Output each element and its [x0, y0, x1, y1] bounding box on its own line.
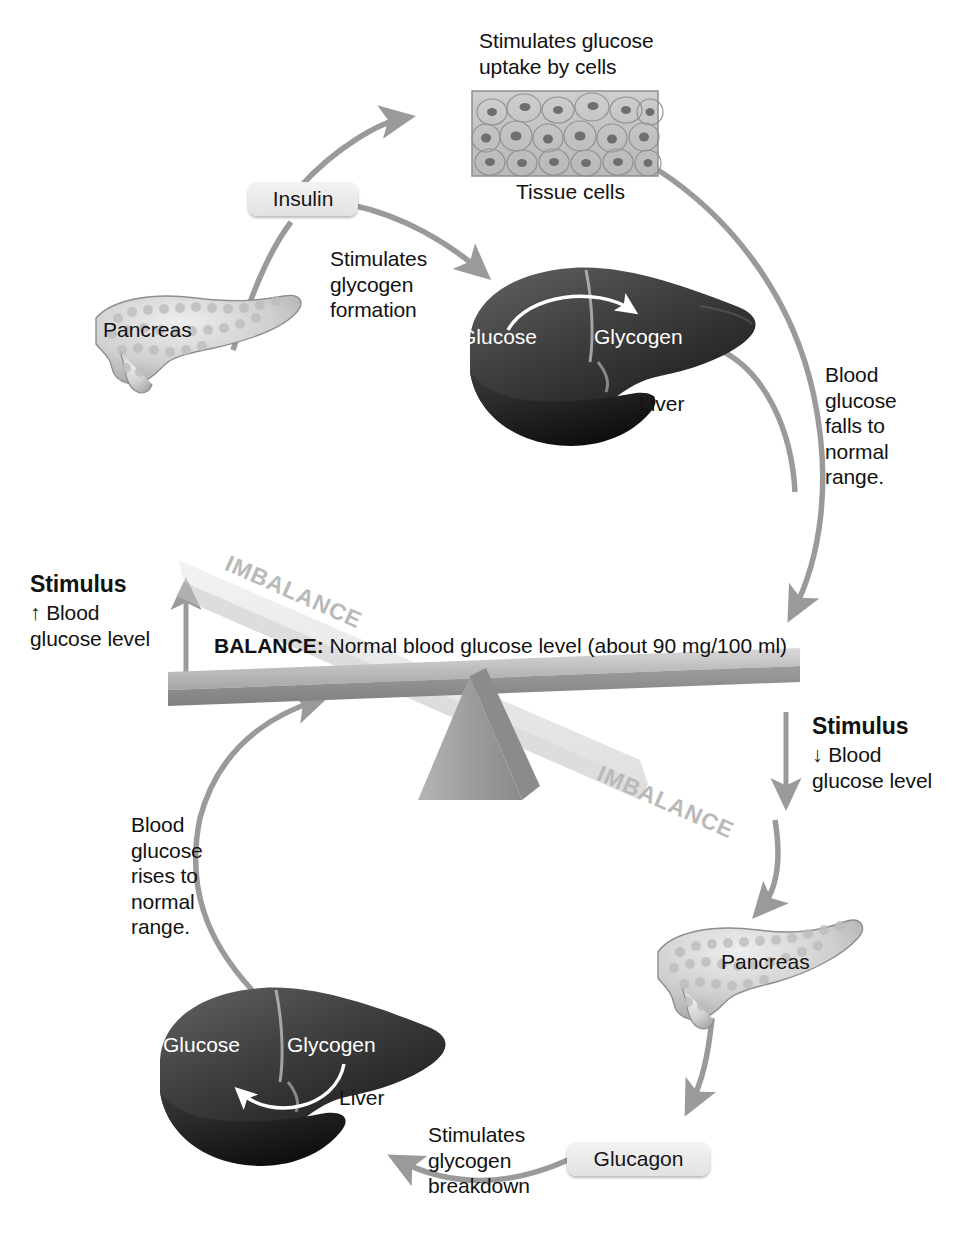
- stimulus-left-body: ↑ Blood glucose level: [30, 600, 150, 651]
- glycogen-to-glucose-arrow: [240, 1064, 344, 1108]
- pancreas-bottom-label: Pancreas: [721, 950, 810, 974]
- arc-pancreas-to-insulin: [233, 222, 291, 350]
- stimulates-glycogen-breakdown-text: Stimulates glycogen breakdown: [428, 1122, 530, 1199]
- arc-insulin-to-tissue: [300, 118, 404, 187]
- stimulus-left-heading: Stimulus: [30, 572, 126, 598]
- stimulates-uptake-text: Stimulates glucose uptake by cells: [479, 28, 653, 79]
- pancreas-bottom-image: [658, 920, 862, 1029]
- tissue-cells-label: Tissue cells: [516, 180, 625, 204]
- liver-bottom-image: [160, 988, 446, 1166]
- balance-statement: BALANCE: Normal blood glucose level (abo…: [214, 634, 787, 658]
- pancreas-top-image: [96, 295, 301, 392]
- liver-bottom-glycogen-label: Glycogen: [287, 1033, 376, 1057]
- arc-stimulus-to-pancreas: [760, 820, 778, 910]
- fulcrum: [418, 668, 540, 800]
- imbalance-beam-ghost: [176, 560, 648, 800]
- stimulates-glycogen-formation-text: Stimulates glycogen formation: [330, 246, 427, 323]
- blood-glucose-falls-text: Blood glucose falls to normal range.: [825, 362, 897, 490]
- balance-statement-rest: Normal blood glucose level (about 90 mg/…: [324, 634, 787, 657]
- stimulus-right-heading: Stimulus: [812, 714, 908, 740]
- arc-tissue-to-balance: [658, 170, 823, 612]
- tissue-cells-image: [472, 91, 663, 176]
- liver-top-image: [470, 268, 756, 446]
- liver-bottom-label: Liver: [339, 1086, 385, 1110]
- liver-top-glucose-label: Glucose: [460, 325, 537, 349]
- imbalance-label-upper: IMBALANCE: [221, 550, 366, 634]
- diagram-canvas: Stimulates glucose uptake by cells Tissu…: [0, 0, 959, 1237]
- liver-top-glycogen-label: Glycogen: [594, 325, 683, 349]
- stimulus-right-body: ↓ Blood glucose level: [812, 742, 932, 793]
- liver-bottom-glucose-label: Glucose: [163, 1033, 240, 1057]
- arc-pancreas-to-glucagon: [690, 1018, 712, 1106]
- arc-liver-to-balance: [196, 700, 318, 990]
- blood-glucose-rises-text: Blood glucose rises to normal range.: [131, 812, 203, 940]
- arc-liver-to-right: [720, 350, 795, 492]
- glucagon-chip[interactable]: Glucagon: [567, 1142, 710, 1176]
- imbalance-label-lower: IMBALANCE: [593, 760, 738, 844]
- balance-statement-bold: BALANCE:: [214, 634, 324, 657]
- insulin-chip[interactable]: Insulin: [248, 182, 358, 216]
- pancreas-top-label: Pancreas: [103, 318, 192, 342]
- liver-top-label: Liver: [639, 392, 685, 416]
